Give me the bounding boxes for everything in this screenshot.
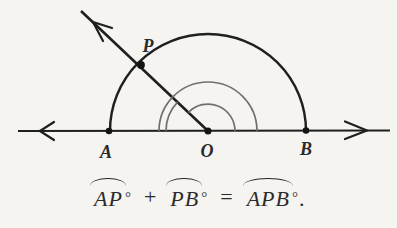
- line-AB: [18, 131, 390, 132]
- point-dot-P: [137, 61, 145, 69]
- plus-operator: +: [144, 184, 157, 210]
- equals-operator: =: [220, 184, 233, 210]
- point-label-O: O: [201, 141, 214, 161]
- point-label-A: A: [99, 142, 112, 162]
- arc-addition-formula: AP ° + PB ° = APB ° .: [0, 186, 397, 212]
- term-arc-APB: APB ° .: [246, 186, 306, 212]
- geometry-figure-arc-addition: A O B P AP ° + PB ° = APB °: [0, 0, 397, 228]
- degree-sign: °: [125, 189, 132, 206]
- point-dot-A: [106, 128, 113, 135]
- period: .: [299, 186, 306, 212]
- degree-sign: °: [292, 189, 299, 206]
- arc-name-AP: AP: [94, 186, 123, 211]
- point-label-B: B: [299, 139, 312, 159]
- point-label-P: P: [142, 36, 155, 56]
- term-arc-PB: PB °: [169, 186, 208, 212]
- point-dot-B: [303, 127, 310, 134]
- point-dot-O: [205, 128, 212, 135]
- arc-name-PB: PB: [170, 186, 199, 211]
- degree-sign: °: [201, 189, 208, 206]
- arc-name-APB: APB: [247, 186, 290, 211]
- arc-AP-measure: [166, 102, 178, 131]
- term-arc-AP: AP °: [93, 186, 132, 212]
